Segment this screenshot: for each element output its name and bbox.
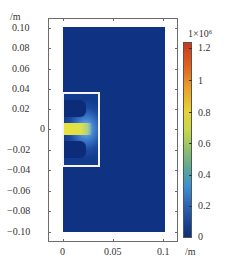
y-axis-unit: /m bbox=[10, 12, 21, 22]
y-tick-label: −0.08 bbox=[7, 206, 30, 216]
colorbar-label: 1 bbox=[198, 76, 203, 86]
x-tick-label: 0 bbox=[60, 247, 65, 257]
y-tick-label: −0.02 bbox=[7, 145, 30, 155]
y-tick bbox=[48, 129, 51, 130]
colorbar-label: 0.4 bbox=[198, 170, 211, 180]
y-tick-label: 0.08 bbox=[12, 43, 30, 53]
x-tick bbox=[163, 239, 164, 242]
x-tick bbox=[163, 18, 164, 21]
colorbar-label: 0.6 bbox=[198, 139, 211, 149]
y-tick bbox=[48, 211, 51, 212]
y-tick bbox=[48, 109, 51, 110]
x-tick-label: 0.05 bbox=[104, 247, 122, 257]
y-tick-label: 0 bbox=[40, 124, 45, 134]
colorbar-tick bbox=[189, 175, 192, 176]
y-tick-label: −0.06 bbox=[7, 186, 30, 196]
y-tick bbox=[175, 89, 178, 90]
y-tick bbox=[48, 28, 51, 29]
x-tick bbox=[113, 239, 114, 242]
colorbar-tick bbox=[189, 80, 192, 81]
colorbar-multiplier: 1×10⁶ bbox=[188, 29, 212, 39]
colorbar-label: 1.2 bbox=[198, 43, 211, 53]
y-tick-label: 0.10 bbox=[12, 23, 30, 33]
x-tick-label: 0.1 bbox=[157, 247, 170, 257]
colorbar-label: 0.8 bbox=[198, 108, 211, 118]
y-tick bbox=[175, 28, 178, 29]
y-tick bbox=[48, 69, 51, 70]
colorbar bbox=[183, 42, 192, 238]
colorbar-tick bbox=[189, 206, 192, 207]
y-tick bbox=[48, 191, 51, 192]
colorbar-label: 0.2 bbox=[198, 201, 211, 211]
colorbar-label: 0 bbox=[198, 232, 203, 242]
y-tick bbox=[48, 150, 51, 151]
y-tick bbox=[175, 170, 178, 171]
colorbar-tick bbox=[189, 48, 192, 49]
y-tick bbox=[175, 211, 178, 212]
y-tick-label: 0.02 bbox=[12, 104, 30, 114]
y-tick bbox=[48, 232, 51, 233]
y-tick bbox=[175, 232, 178, 233]
y-tick-label: −0.04 bbox=[7, 165, 30, 175]
x-tick bbox=[63, 239, 64, 242]
y-tick bbox=[175, 69, 178, 70]
y-tick bbox=[48, 170, 51, 171]
highlight-box bbox=[62, 92, 100, 167]
y-tick-label: −0.10 bbox=[7, 227, 30, 237]
y-tick bbox=[175, 129, 178, 130]
y-tick bbox=[175, 191, 178, 192]
y-tick bbox=[175, 48, 178, 49]
x-tick bbox=[63, 18, 64, 21]
x-tick bbox=[113, 18, 114, 21]
colorbar-tick bbox=[189, 112, 192, 113]
y-tick-label: 0.06 bbox=[12, 64, 30, 74]
colorbar-tick bbox=[189, 143, 192, 144]
y-tick bbox=[175, 150, 178, 151]
y-tick bbox=[48, 48, 51, 49]
y-tick-label: 0.04 bbox=[12, 84, 30, 94]
x-axis-unit: /m bbox=[185, 247, 196, 257]
y-tick bbox=[48, 89, 51, 90]
y-tick bbox=[175, 109, 178, 110]
